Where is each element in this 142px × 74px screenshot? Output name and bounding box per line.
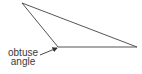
obtuse-triangle xyxy=(22,3,137,47)
label-line-2: angle xyxy=(3,57,43,66)
obtuse-angle-label: obtuse angle xyxy=(3,48,43,66)
